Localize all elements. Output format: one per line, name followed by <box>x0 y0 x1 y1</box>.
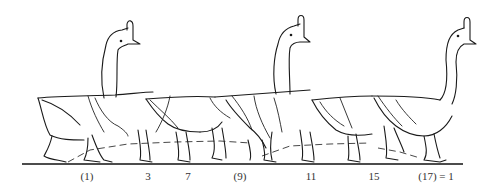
goose-frame-1 <box>38 21 153 162</box>
frame-label-3: 3 <box>145 170 151 182</box>
frame-label-7: 7 <box>185 170 191 182</box>
goose-drawing <box>0 0 499 192</box>
goose-frame-3-7 <box>138 96 230 162</box>
frame-label-1: (1) <box>81 170 94 182</box>
goose-frame-17 <box>372 18 476 163</box>
goose-frame-9 <box>215 16 310 163</box>
foot-path-dashed-2 <box>262 143 370 156</box>
frame-label-17: (17) = 1 <box>418 170 454 182</box>
frame-label-15: 15 <box>369 170 380 182</box>
frame-label-11: 11 <box>306 170 317 182</box>
frame-label-9: (9) <box>234 170 247 182</box>
goose-walk-cycle-figure: (1) 3 7 (9) 11 15 (17) = 1 <box>0 0 499 192</box>
foot-path-dashed-3 <box>378 148 420 158</box>
goose-frame-11-15 <box>300 96 372 162</box>
